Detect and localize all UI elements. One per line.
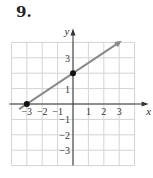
x-tick-label: 3 <box>117 106 122 117</box>
x-tick-label: 1 <box>86 106 91 117</box>
y-tick-label: −1 <box>59 114 70 125</box>
y-tick-label: −3 <box>59 145 70 156</box>
x-axis-label: x <box>145 105 151 117</box>
data-point <box>70 70 76 76</box>
y-tick-label: 3 <box>65 53 70 64</box>
x-tick-label: 2 <box>101 106 106 117</box>
y-axis-label: y <box>64 25 70 37</box>
graph: xy−3−2−112331−1−2−3 <box>0 0 153 178</box>
data-point <box>24 101 30 107</box>
y-tick-label: −2 <box>59 130 70 141</box>
x-tick-label: −2 <box>37 106 48 117</box>
y-axis-arrow <box>71 28 76 35</box>
y-tick-label: 1 <box>65 84 70 95</box>
